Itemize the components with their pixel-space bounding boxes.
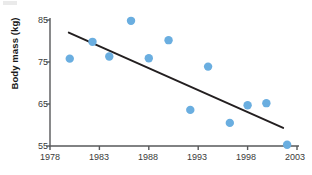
data-point bbox=[164, 36, 172, 44]
data-points bbox=[66, 17, 292, 149]
data-point bbox=[66, 54, 74, 62]
axis-lines bbox=[50, 18, 299, 146]
data-point bbox=[226, 119, 234, 127]
regression-line bbox=[69, 33, 283, 128]
axes bbox=[46, 18, 299, 150]
data-point bbox=[204, 62, 212, 70]
scatter-chart: Body mass (kg) 85 75 65 55 1978 1983 198… bbox=[0, 0, 312, 175]
data-point bbox=[105, 52, 113, 60]
data-point bbox=[145, 54, 153, 62]
data-point bbox=[186, 106, 194, 114]
data-point bbox=[283, 141, 291, 149]
plot-area bbox=[0, 0, 312, 175]
data-point bbox=[243, 101, 251, 109]
data-point bbox=[127, 17, 135, 25]
trend-line bbox=[69, 33, 283, 128]
data-point bbox=[88, 38, 96, 46]
data-point bbox=[262, 99, 270, 107]
